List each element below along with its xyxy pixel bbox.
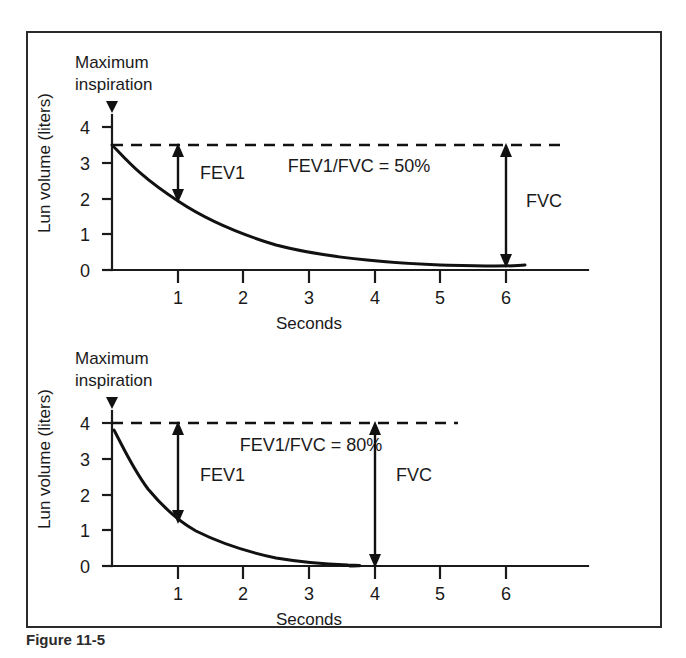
- max-inspiration-line2: inspiration: [75, 75, 153, 94]
- x-tick-3: 3: [304, 288, 314, 308]
- y-axis-tick-labels: 4 3 2 1 0: [80, 414, 90, 577]
- x-tick-6: 6: [501, 584, 511, 604]
- x-tick-2: 2: [238, 288, 248, 308]
- chart-normal: Maximum inspiration Lun volume (liters) …: [28, 329, 664, 626]
- y-tick-0: 0: [80, 261, 90, 281]
- x-tick-6: 6: [501, 288, 511, 308]
- chart-top-svg: Maximum inspiration Lun volume (liters): [28, 33, 664, 333]
- ratio-label: FEV1/FVC = 50%: [288, 156, 431, 176]
- max-inspiration-line2: inspiration: [75, 371, 153, 390]
- y-tick-1: 1: [80, 225, 90, 245]
- y-tick-2: 2: [80, 486, 90, 506]
- x-axis-tick-labels: 1 2 3 4 5 6: [173, 584, 511, 604]
- fvc-measure-arrow: [500, 143, 512, 268]
- x-tick-4: 4: [370, 584, 380, 604]
- fvc-label: FVC: [526, 191, 562, 211]
- x-tick-3: 3: [304, 584, 314, 604]
- figure-root: Maximum inspiration Lun volume (liters): [0, 0, 686, 658]
- x-axis-ticks: [178, 566, 506, 579]
- chart-obstructive: Maximum inspiration Lun volume (liters): [28, 33, 664, 333]
- ratio-label: FEV1/FVC = 80%: [240, 435, 383, 455]
- y-tick-2: 2: [80, 190, 90, 210]
- fev1-measure-arrow: [172, 421, 184, 524]
- x-tick-1: 1: [173, 584, 183, 604]
- fvc-label: FVC: [396, 465, 432, 485]
- x-tick-5: 5: [435, 584, 445, 604]
- y-tick-1: 1: [80, 521, 90, 541]
- x-tick-2: 2: [238, 584, 248, 604]
- y-tick-4: 4: [80, 118, 90, 138]
- y-tick-4: 4: [80, 414, 90, 434]
- figure-caption: Figure 11-5: [26, 634, 426, 649]
- y-tick-3: 3: [80, 450, 90, 470]
- fev1-label: FEV1: [200, 163, 245, 183]
- y-axis-ticks: [102, 127, 112, 270]
- chart-bottom-svg: Maximum inspiration Lun volume (liters) …: [28, 329, 664, 626]
- y-axis-label: Lun volume (liters): [35, 389, 54, 529]
- x-tick-4: 4: [370, 288, 380, 308]
- y-tick-3: 3: [80, 154, 90, 174]
- fev1-measure-arrow: [172, 143, 184, 203]
- figure-frame: Maximum inspiration Lun volume (liters): [26, 31, 662, 628]
- y-axis-label: Lun volume (liters): [35, 93, 54, 233]
- y-axis-tick-labels: 4 3 2 1 0: [80, 118, 90, 281]
- max-inspiration-line1: Maximum: [75, 53, 149, 72]
- figure-caption-strip: Figure 11-5: [26, 634, 426, 658]
- x-tick-5: 5: [435, 288, 445, 308]
- down-triangle-icon: [106, 397, 118, 409]
- down-triangle-icon: [106, 101, 118, 113]
- fev1-label: FEV1: [200, 465, 245, 485]
- max-inspiration-line1: Maximum: [75, 349, 149, 368]
- x-tick-1: 1: [173, 288, 183, 308]
- x-axis-ticks: [178, 270, 506, 283]
- y-tick-0: 0: [80, 557, 90, 577]
- x-axis-tick-labels: 1 2 3 4 5 6: [173, 288, 511, 308]
- x-axis-label: Seconds: [276, 610, 342, 626]
- y-axis-ticks: [102, 423, 112, 566]
